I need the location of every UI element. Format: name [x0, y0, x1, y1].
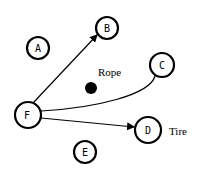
edge-f-to-d — [41, 118, 134, 127]
edge-f-to-c — [41, 76, 155, 111]
node-c-label: C — [159, 60, 165, 71]
node-f-label: F — [24, 110, 30, 121]
node-e: E — [74, 141, 96, 163]
node-b-label: B — [104, 23, 110, 34]
node-a: A — [27, 37, 49, 59]
node-e-label: E — [82, 147, 88, 158]
rope-dot — [85, 82, 97, 94]
node-b: B — [96, 17, 118, 39]
tire-label: Tire — [169, 125, 187, 137]
diagram-canvas: Rope A B C D E F Tire — [0, 0, 201, 179]
node-d: D — [135, 117, 161, 143]
node-d-label: D — [145, 125, 151, 136]
node-f: F — [15, 102, 41, 128]
node-a-label: A — [35, 43, 41, 54]
rope-label: Rope — [98, 66, 121, 78]
node-c: C — [150, 53, 174, 77]
